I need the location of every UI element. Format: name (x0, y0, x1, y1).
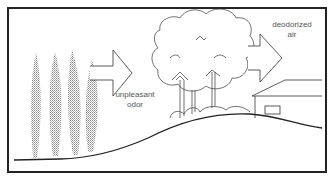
unpleasant-odor-label: unpleasant odor (100, 90, 170, 110)
house (252, 80, 322, 118)
unpleasant-odor-label-line2: odor (100, 100, 170, 110)
deodorized-air-label: deodorized air (262, 20, 322, 40)
unpleasant-odor-label-line1: unpleasant (100, 90, 170, 100)
deodorized-air-label-line2: air (262, 30, 322, 40)
odor-plumes (31, 50, 98, 158)
deodorized-air-label-line1: deodorized (262, 20, 322, 30)
